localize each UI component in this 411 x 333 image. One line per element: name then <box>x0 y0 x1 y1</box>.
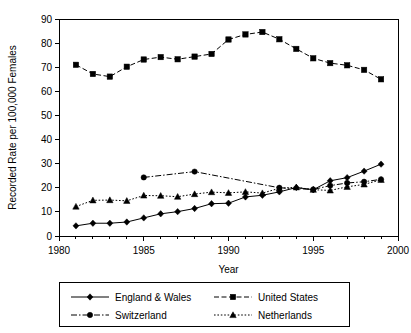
data-point <box>361 168 367 174</box>
data-point <box>344 63 349 68</box>
legend: England & WalesUnited StatesSwitzerlandN… <box>59 282 349 326</box>
x-tick-label: 1985 <box>133 245 156 256</box>
data-point <box>107 197 113 203</box>
data-point <box>378 161 384 167</box>
data-point <box>124 64 129 69</box>
data-point <box>141 57 146 62</box>
data-point <box>73 62 78 67</box>
x-axis-title: Year <box>218 264 239 275</box>
data-point <box>107 74 112 79</box>
data-point <box>209 200 215 206</box>
legend-label: Switzerland <box>115 310 167 321</box>
data-point <box>226 37 231 42</box>
data-point <box>328 60 333 65</box>
y-tick-label: 0 <box>46 231 52 242</box>
legend-marker <box>87 312 92 317</box>
data-point <box>209 51 214 56</box>
data-point <box>192 54 197 59</box>
legend-marker <box>230 294 235 299</box>
data-point <box>73 203 79 209</box>
y-tick-label: 70 <box>41 62 53 73</box>
legend-item-netherlands[interactable]: Netherlands <box>214 310 312 321</box>
data-point <box>90 71 95 76</box>
series-united-states <box>73 29 384 82</box>
chart-figure: 0102030405060708090Recorded Rate per 100… <box>0 0 411 333</box>
data-point <box>124 219 130 225</box>
legend-marker <box>87 294 93 300</box>
y-axis: 0102030405060708090Recorded Rate per 100… <box>7 14 59 242</box>
data-point <box>378 77 383 82</box>
legend-label: United States <box>258 292 318 303</box>
legend-item-united-states[interactable]: United States <box>214 292 318 303</box>
y-tick-label: 20 <box>41 182 53 193</box>
y-tick-label: 80 <box>41 38 53 49</box>
data-point <box>294 46 299 51</box>
data-point <box>192 205 198 211</box>
x-tick-label: 1990 <box>217 245 240 256</box>
data-point <box>175 57 180 62</box>
legend-label: England & Wales <box>115 292 191 303</box>
data-point <box>90 220 96 226</box>
x-tick-label: 1980 <box>48 245 71 256</box>
y-tick-label: 90 <box>41 14 53 25</box>
data-point <box>124 198 130 204</box>
data-point <box>311 56 316 61</box>
y-tick-label: 40 <box>41 134 53 145</box>
data-point <box>226 200 232 206</box>
data-point <box>107 220 113 226</box>
data-point <box>73 223 79 229</box>
legend-label: Netherlands <box>258 310 312 321</box>
data-point <box>90 197 96 203</box>
line-chart: 0102030405060708090Recorded Rate per 100… <box>0 0 411 333</box>
y-tick-label: 50 <box>41 110 53 121</box>
data-point <box>277 37 282 42</box>
data-point <box>260 29 265 34</box>
data-point <box>175 208 181 214</box>
data-point <box>141 175 146 180</box>
y-tick-label: 10 <box>41 206 53 217</box>
x-axis: 19801985199019952000Year <box>48 236 410 275</box>
x-tick-label: 1995 <box>302 245 325 256</box>
data-point <box>158 54 163 59</box>
data-point <box>141 215 147 221</box>
x-tick-label: 2000 <box>387 245 410 256</box>
data-point <box>361 67 366 72</box>
legend-item-switzerland[interactable]: Switzerland <box>71 310 167 321</box>
y-tick-label: 30 <box>41 158 53 169</box>
data-point <box>344 174 350 180</box>
y-axis-title: Recorded Rate per 100,000 Females <box>7 45 18 210</box>
y-tick-label: 60 <box>41 86 53 97</box>
data-point <box>243 32 248 37</box>
legend-item-england-wales[interactable]: England & Wales <box>71 292 191 303</box>
data-point <box>192 169 197 174</box>
data-point <box>158 211 164 217</box>
